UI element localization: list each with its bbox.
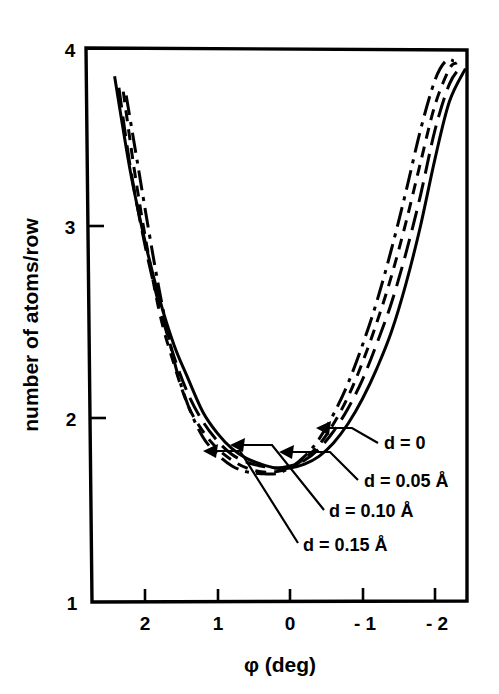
y-axis-title: number of atoms/row [19,218,42,432]
figure-container: 4 3 2 1 number of atoms/row 2 1 0 - 1 - … [0,0,499,694]
curve-series-2 [123,63,457,472]
x-axis-tick-labels: 2 1 0 - 1 - 2 [140,613,448,634]
chart-canvas: 4 3 2 1 number of atoms/row 2 1 0 - 1 - … [0,0,499,694]
annotation-arrowhead-3 [203,444,218,458]
x-tick-label-2: 2 [140,613,151,634]
y-tick-label-4: 4 [65,40,76,61]
curve-series-3 [126,59,454,474]
annotation-label-0: d = 0 [384,433,426,453]
annotation-label-2: d = 0.10 Å [329,501,414,521]
x-tick-label-0: 0 [285,613,296,634]
y-axis-tick-labels: 4 3 2 1 [65,40,78,614]
y-tick-label-3: 3 [65,217,76,238]
annotation-label-3: d = 0.15 Å [303,535,388,555]
x-axis-ticks [145,588,435,601]
x-axis-title: φ (deg) [244,653,316,676]
x-tick-label-neg2: - 2 [426,613,448,634]
x-tick-label-neg1: - 1 [354,613,377,634]
data-curves [115,59,466,474]
y-tick-label-1: 1 [67,593,78,614]
annotation-label-1: d = 0.05 Å [364,471,449,491]
y-tick-label-2: 2 [66,409,77,430]
curve-series-0 [115,69,466,469]
x-tick-label-1: 1 [213,613,224,634]
